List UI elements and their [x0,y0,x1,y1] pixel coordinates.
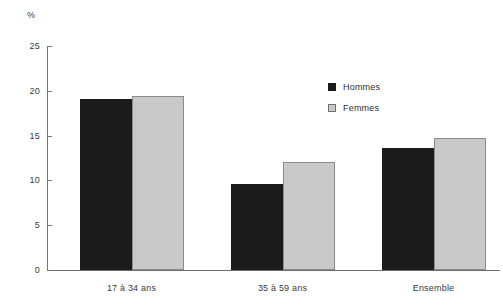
plot-area [47,46,500,270]
x-axis-label-2: 35 à 59 ans [223,283,343,293]
y-axis-tick-label: 25 [0,41,40,51]
bar-hommes-1 [80,99,132,270]
y-axis-tick-label: 0 [0,265,40,275]
x-axis-line [47,270,500,271]
legend-label: Hommes [343,82,380,92]
legend-swatch-hommes-icon [328,83,336,91]
x-axis-label-3: Ensemble [374,283,494,293]
bar-femmes-2 [283,162,335,270]
y-axis-tick-label: 10 [0,175,40,185]
y-axis-unit-label: % [27,10,35,20]
legend-label: Femmes [343,103,379,113]
legend-item-femmes[interactable]: Femmes [328,100,380,115]
y-axis-tick-label: 15 [0,131,40,141]
bar-femmes-1 [132,96,184,270]
bar-hommes-3 [382,148,434,270]
bar-hommes-2 [231,184,283,270]
y-axis-tick-label: 5 [0,220,40,230]
bar-chart: % 0510152025 17 à 34 ans35 à 59 ansEnsem… [0,0,503,308]
y-axis-tick-mark [47,270,52,271]
y-axis-tick-label: 20 [0,86,40,96]
legend-item-hommes[interactable]: Hommes [328,79,380,94]
legend-swatch-femmes-icon [328,104,336,112]
legend: HommesFemmes [328,79,380,121]
bar-femmes-3 [434,138,486,270]
x-axis-label-1: 17 à 34 ans [72,283,192,293]
